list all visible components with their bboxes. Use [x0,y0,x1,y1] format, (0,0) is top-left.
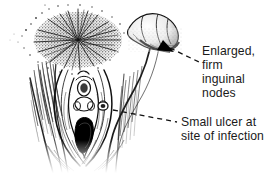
callout-label-enlarged-nodes: Enlarged, firm inguinal nodes [202,44,255,100]
chancre-ulcer-site [98,101,108,110]
figure-container: Enlarged, firm inguinal nodes Small ulce… [0,0,280,173]
callout-label-small-ulcer: Small ulcer at site of infection [181,115,264,143]
